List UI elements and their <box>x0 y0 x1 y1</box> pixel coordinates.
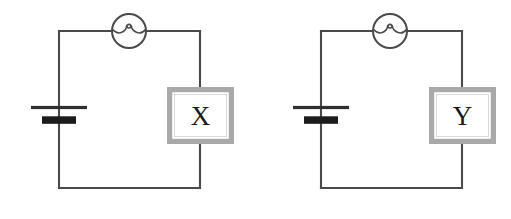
component-box-x-label: X <box>191 101 211 131</box>
lamp <box>373 14 407 48</box>
battery-negative-plate <box>304 116 338 124</box>
battery-negative-plate <box>42 116 76 124</box>
lamp-bulb-outline <box>112 14 146 48</box>
battery-positive-plate <box>293 106 349 109</box>
left-circuit: X <box>31 14 231 188</box>
right-circuit: Y <box>293 14 493 188</box>
lamp <box>112 14 146 48</box>
unknown-component-y[interactable]: Y <box>432 90 494 142</box>
unknown-component-x[interactable]: X <box>170 90 232 142</box>
component-box-y-label: Y <box>453 101 473 131</box>
circuit-diagram: X <box>0 0 511 219</box>
circuit-diagram-canvas: X <box>0 0 511 219</box>
lamp-bulb-outline <box>373 14 407 48</box>
battery-positive-plate <box>31 106 87 109</box>
